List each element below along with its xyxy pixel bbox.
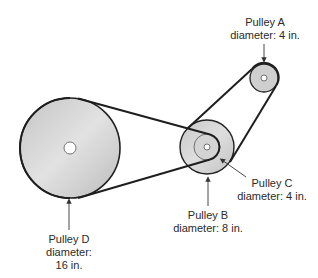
label-pulley-c: Pulley C diameter: 4 in. [222, 160, 307, 202]
label-pulley-d: Pulley D diameter: 16 in. [46, 201, 92, 271]
pulley-b-diameter: diameter: 8 in. [173, 222, 243, 234]
pulley-d-diameter-line1: diameter: [46, 246, 92, 258]
pulley-a-hub [261, 75, 267, 81]
pulley-c-name: Pulley C [252, 177, 293, 189]
pulley-bc-hub [204, 144, 210, 150]
arrow-pulley-c [222, 160, 246, 177]
pulley-d-hub [64, 142, 76, 154]
pulley-a-name: Pulley A [245, 16, 285, 28]
label-pulley-b: Pulley B diameter: 8 in. [173, 179, 243, 234]
pulley-b-name: Pulley B [188, 209, 228, 221]
pulley-d-diameter-line2: 16 in. [56, 259, 83, 271]
pulley-a-diameter: diameter: 4 in. [230, 29, 300, 41]
pulley-d-name: Pulley D [49, 233, 90, 245]
pulley-c-diameter: diameter: 4 in. [237, 190, 307, 202]
pulley-diagram: Pulley A diameter: 4 in. Pulley C diamet… [0, 0, 318, 278]
label-pulley-a: Pulley A diameter: 4 in. [230, 16, 300, 60]
